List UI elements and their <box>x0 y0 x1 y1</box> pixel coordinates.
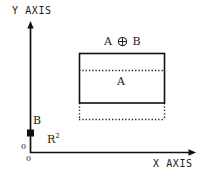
sum-region-label: A B <box>104 36 141 47</box>
plane-label-exponent: 2 <box>55 132 59 140</box>
sum-label-right-operand: B <box>132 35 141 48</box>
y-axis-arrowhead-icon <box>27 21 33 29</box>
diagram-canvas <box>0 0 208 178</box>
x-axis-arrowhead-icon <box>189 149 197 155</box>
point-b-marker-icon <box>27 130 34 137</box>
x-axis-label: X AXIS <box>153 159 193 169</box>
sum-label-left-operand: A <box>104 35 112 48</box>
minkowski-sum-figure: Y AXIS X AXIS 0 0 B R2 A B A <box>0 0 208 178</box>
set-a-label: A <box>117 76 125 87</box>
plane-label: R2 <box>47 134 60 145</box>
origin-label-y: 0 <box>21 143 26 151</box>
point-b-label: B <box>33 115 41 126</box>
origin-label-x: 0 <box>26 155 31 163</box>
y-axis-label: Y AXIS <box>12 6 52 16</box>
